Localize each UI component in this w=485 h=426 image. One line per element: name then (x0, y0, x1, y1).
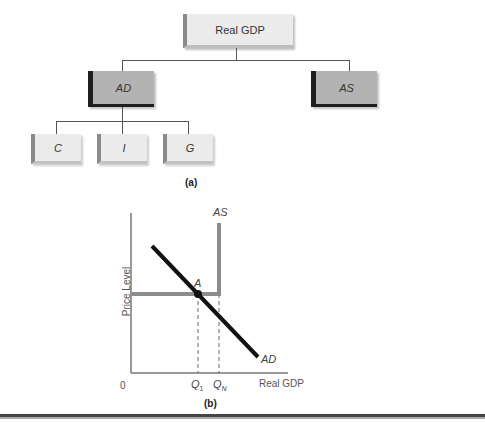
ad-curve-label: AD (261, 353, 276, 365)
qn-label-main: Q (213, 378, 222, 390)
q1-label-main: Q (191, 378, 200, 390)
as-curve (131, 223, 219, 294)
origin-label: 0 (120, 380, 126, 391)
caption-b: (b) (204, 398, 217, 409)
qn-label: QN (213, 378, 227, 392)
x-axis-label: Real GDP (259, 378, 304, 389)
q1-label: Q1 (191, 378, 203, 392)
q1-label-sub: 1 (200, 385, 204, 392)
y-axis-label: Price Level (121, 252, 132, 332)
as-curve-label: AS (213, 206, 228, 218)
bottom-rule-shadow (0, 417, 485, 419)
equilibrium-point-a (194, 290, 202, 298)
point-a-label: A (194, 277, 201, 289)
ad-as-graph: AS AD A Price Level 0 Q1 QN Real GDP (b) (0, 0, 485, 426)
ad-curve (152, 246, 258, 357)
graph-canvas (0, 0, 485, 426)
qn-label-sub: N (222, 385, 227, 392)
